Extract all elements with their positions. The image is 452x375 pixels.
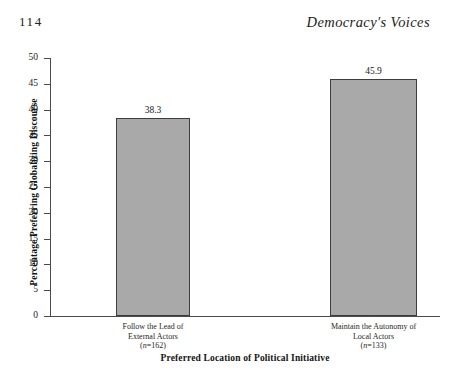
bar	[330, 79, 417, 316]
y-axis-tick	[44, 161, 50, 162]
y-axis-tick	[44, 239, 50, 240]
category-label-line: External Actors	[83, 332, 223, 342]
x-axis-title: Preferred Location of Political Initiati…	[50, 353, 440, 363]
sample-size-label: (n=162)	[83, 341, 223, 351]
y-axis-tick	[44, 187, 50, 188]
bar-value-label: 38.3	[116, 106, 190, 116]
y-axis-tick	[44, 316, 50, 317]
category-label-line: Local Actors	[304, 332, 444, 342]
y-axis-tick	[44, 58, 50, 59]
y-axis-tick	[44, 290, 50, 291]
x-axis-category-label: Maintain the Autonomy ofLocal Actors(n=1…	[304, 322, 444, 351]
y-axis-line	[50, 58, 51, 317]
sample-size-label: (n=133)	[304, 341, 444, 351]
y-axis-tick	[44, 84, 50, 85]
x-axis-category-label: Follow the Lead ofExternal Actors(n=162)	[83, 322, 223, 351]
y-axis-title: Percentage Preferring Globalizing Discou…	[29, 62, 39, 322]
category-label-line: Maintain the Autonomy of	[304, 322, 444, 332]
sample-size-n-symbol: n	[363, 341, 367, 350]
bar	[116, 118, 190, 316]
y-axis-tick	[44, 264, 50, 265]
category-label-line: Follow the Lead of	[83, 322, 223, 332]
y-axis-tick	[44, 213, 50, 214]
bar-value-label: 45.9	[330, 67, 417, 77]
y-axis-tick	[44, 135, 50, 136]
y-axis-tick	[44, 110, 50, 111]
sample-size-n-symbol: n	[143, 341, 147, 350]
bar-chart-figure: 05101520253035404550 38.345.9 Follow the…	[0, 0, 452, 375]
x-axis-line	[50, 316, 440, 317]
